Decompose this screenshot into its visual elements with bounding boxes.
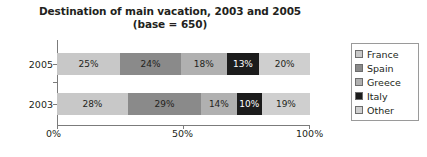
legend-swatch-other-icon: [355, 106, 363, 114]
legend-swatch-spain-icon: [355, 64, 363, 72]
legend-item-other[interactable]: Other: [355, 103, 415, 117]
legend-swatch-france-icon: [355, 50, 363, 58]
plot-area: 25%24%18%13%20% 28%29%14%10%19%: [57, 40, 310, 125]
bar-segment-italy-2005: 13%: [227, 53, 260, 75]
x-axis-tick-100: [309, 125, 310, 129]
bar-segment-spain-2003: 29%: [128, 93, 201, 115]
legend-label: Greece: [367, 77, 401, 88]
x-axis-tick-0: [57, 125, 58, 129]
x-tick-label-50: 50%: [172, 128, 193, 139]
bar-segment-greece-2005: 18%: [181, 53, 227, 75]
legend-item-spain[interactable]: Spain: [355, 61, 415, 75]
y-tick-label-2005: 2005: [5, 59, 53, 70]
y-tick-label-2003: 2003: [5, 99, 53, 110]
y-axis-tick-mid: [53, 82, 57, 83]
bar-segment-other-2005: 20%: [259, 53, 310, 75]
bar-segment-italy-2003: 10%: [237, 93, 262, 115]
legend-label: Other: [367, 105, 394, 116]
legend-item-greece[interactable]: Greece: [355, 75, 415, 89]
legend-label: France: [367, 49, 399, 60]
stacked-bar-2005: 25%24%18%13%20%: [57, 53, 310, 75]
bar-segment-france-2003: 28%: [57, 93, 128, 115]
legend-label: Spain: [367, 63, 394, 74]
bar-segment-other-2003: 19%: [262, 93, 310, 115]
legend-swatch-greece-icon: [355, 78, 363, 86]
bar-segment-spain-2005: 24%: [120, 53, 181, 75]
x-axis-tick-50: [183, 125, 184, 129]
chart-title: Destination of main vacation, 2003 and 2…: [0, 5, 340, 18]
legend-item-italy[interactable]: Italy: [355, 89, 415, 103]
x-tick-label-0: 0%: [46, 128, 61, 139]
legend-item-france[interactable]: France: [355, 47, 415, 61]
bar-segment-greece-2003: 14%: [201, 93, 236, 115]
chart-legend: FranceSpainGreeceItalyOther: [351, 43, 419, 121]
chart-title-block: Destination of main vacation, 2003 and 2…: [0, 5, 340, 31]
bar-segment-france-2005: 25%: [57, 53, 120, 75]
x-tick-label-100: 100%: [296, 128, 323, 139]
chart-subtitle: (base = 650): [0, 18, 340, 31]
legend-label: Italy: [367, 91, 388, 102]
legend-swatch-italy-icon: [355, 92, 363, 100]
chart-container: Destination of main vacation, 2003 and 2…: [0, 0, 427, 157]
stacked-bar-2003: 28%29%14%10%19%: [57, 93, 310, 115]
